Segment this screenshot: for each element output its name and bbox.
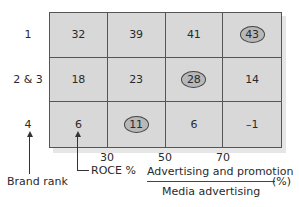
tick-50: 50 bbox=[158, 151, 172, 164]
highlight-oval: 43 bbox=[240, 26, 265, 43]
tick-30: 30 bbox=[100, 151, 114, 164]
matrix-cell: 39 bbox=[108, 13, 166, 58]
matrix-cell: 41 bbox=[166, 13, 224, 58]
cell-value: 18 bbox=[71, 73, 85, 86]
matrix-cell: 18 bbox=[50, 58, 108, 103]
highlight-oval: 28 bbox=[181, 71, 206, 88]
matrix-cell: 6 bbox=[166, 102, 224, 147]
roce-arrow-icon bbox=[75, 131, 81, 137]
roce-arrow-elbow bbox=[77, 170, 89, 171]
cell-value: 32 bbox=[71, 28, 85, 41]
row-label-rank-1: 1 bbox=[8, 28, 48, 41]
unit-label: (%) bbox=[272, 175, 291, 188]
matrix-cell: 11 bbox=[108, 102, 166, 147]
brand-rank-arrow-icon bbox=[27, 131, 33, 137]
highlight-oval: 11 bbox=[124, 116, 149, 133]
roce-label: ROCE % bbox=[91, 164, 136, 177]
cell-value: 39 bbox=[129, 28, 143, 41]
matrix-cell: –1 bbox=[223, 102, 281, 147]
matrix-cell: 14 bbox=[223, 58, 281, 103]
matrix-cell: 6 bbox=[50, 102, 108, 147]
matrix-cell: 43 bbox=[223, 13, 281, 58]
matrix-cell: 28 bbox=[166, 58, 224, 103]
matrix-cell: 32 bbox=[50, 13, 108, 58]
cell-value: 6 bbox=[190, 118, 197, 131]
tick-70: 70 bbox=[216, 151, 230, 164]
row-label-rank-4: 4 bbox=[8, 118, 48, 131]
matrix-cell: 23 bbox=[108, 58, 166, 103]
denominator-label: Media advertising bbox=[162, 185, 260, 198]
cell-value: 41 bbox=[187, 28, 201, 41]
roce-matrix: 32394143182328146116–1 bbox=[49, 12, 282, 148]
cell-value: 23 bbox=[129, 73, 143, 86]
cell-value: 14 bbox=[245, 73, 259, 86]
brand-rank-arrow-line bbox=[29, 136, 30, 174]
cell-value: –1 bbox=[246, 118, 259, 131]
brand-rank-label: Brand rank bbox=[7, 175, 68, 188]
row-label-rank-2-3: 2 & 3 bbox=[8, 73, 48, 86]
fraction-bar bbox=[147, 181, 275, 182]
roce-arrow-line bbox=[77, 136, 78, 170]
cell-value: 6 bbox=[75, 118, 82, 131]
